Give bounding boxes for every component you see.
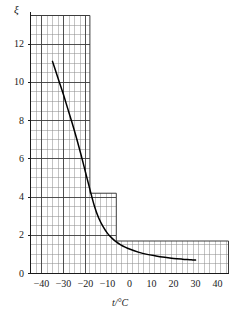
y-tick-label: 12 <box>2 39 24 49</box>
y-axis-symbol: ξ <box>14 4 19 15</box>
grid-minor-lines <box>31 16 229 274</box>
axis-lines <box>28 12 229 274</box>
grid-region-borders <box>31 16 229 274</box>
x-axis-title: t/°C <box>0 298 240 308</box>
x-tick-label: 40 <box>205 279 231 289</box>
data-curve <box>53 61 196 260</box>
chart-canvas <box>0 0 240 321</box>
y-tick-label: 10 <box>2 77 24 87</box>
grid-outline <box>31 16 229 274</box>
grid-major-lines <box>31 16 229 274</box>
y-tick-label: 0 <box>2 269 24 279</box>
y-tick-label: 2 <box>2 230 24 240</box>
data-series-group <box>53 61 196 260</box>
y-tick-label: 6 <box>2 154 24 164</box>
y-tick-label: 8 <box>2 116 24 126</box>
chart-figure: ξ t/°C 024681012 −40−30−20−10010203040 <box>0 0 240 321</box>
y-tick-label: 4 <box>2 192 24 202</box>
